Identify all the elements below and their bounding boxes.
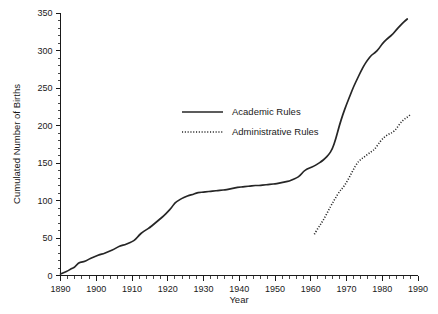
y-axis-tick-labels: 050100150200250300350: [37, 8, 52, 281]
x-tick-label: 1950: [265, 284, 285, 294]
x-tick-label: 1970: [336, 284, 356, 294]
y-tick-label: 100: [37, 196, 52, 206]
x-tick-label: 1890: [50, 284, 70, 294]
x-tick-label: 1900: [86, 284, 106, 294]
y-axis-title: Cumulated Number of Births: [11, 84, 22, 204]
y-tick-label: 0: [47, 271, 52, 281]
x-axis-tick-labels: 1890190019101920193019401950196019701980…: [50, 284, 428, 294]
x-tick-label: 1980: [372, 284, 392, 294]
x-tick-label: 1960: [301, 284, 321, 294]
plot-area: [61, 19, 411, 274]
y-axis: 050100150200250300350 Cumulated Number o…: [11, 8, 61, 281]
x-tick-label: 1940: [229, 284, 249, 294]
y-tick-label: 150: [37, 158, 52, 168]
y-tick-label: 350: [37, 8, 52, 18]
chart-container: 050100150200250300350 Cumulated Number o…: [0, 0, 438, 314]
y-tick-label: 50: [42, 233, 52, 243]
y-tick-label: 300: [37, 46, 52, 56]
x-tick-label: 1910: [122, 284, 142, 294]
x-axis-title: Year: [229, 294, 248, 305]
line-chart: 050100150200250300350 Cumulated Number o…: [0, 0, 438, 314]
series-academic-rules: [61, 19, 408, 274]
y-axis-major-ticks: [56, 13, 61, 276]
x-tick-label: 1920: [158, 284, 178, 294]
x-axis-major-ticks: [61, 276, 419, 281]
legend-label: Administrative Rules: [232, 126, 319, 137]
series-administrative-rules: [314, 114, 411, 234]
x-tick-label: 1990: [408, 284, 428, 294]
y-tick-label: 200: [37, 121, 52, 131]
legend-label: Academic Rules: [232, 106, 301, 117]
x-tick-label: 1930: [193, 284, 213, 294]
y-tick-label: 250: [37, 83, 52, 93]
x-axis: 1890190019101920193019401950196019701980…: [50, 276, 428, 306]
chart-legend: Academic RulesAdministrative Rules: [182, 106, 319, 137]
